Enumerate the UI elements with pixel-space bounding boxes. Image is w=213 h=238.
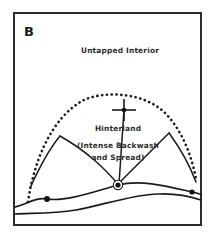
port-node-core [116, 183, 120, 187]
label-and-spread: and Spread) [91, 153, 144, 162]
settlement-dot-west [44, 196, 50, 202]
hinterland-center-dot [122, 108, 127, 113]
settlement-dot-east [189, 189, 194, 194]
figure-diagram-svg: B Untapped Interior Hinterland (Intense … [0, 0, 213, 238]
figure-panel-b: B Untapped Interior Hinterland (Intense … [0, 0, 213, 238]
label-hinterland: Hinterland [95, 124, 141, 133]
interior-route-west-extension [30, 136, 60, 188]
label-untapped-interior: Untapped Interior [81, 46, 159, 55]
label-intense-backwash: (Intense Backwash [77, 141, 159, 150]
coastline-lower [15, 194, 201, 214]
figure-frame-border [14, 13, 201, 225]
panel-label-b: B [24, 24, 34, 39]
